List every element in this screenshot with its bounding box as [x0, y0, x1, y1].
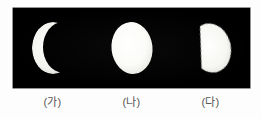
phase-label-row: (가) (나) (다) — [13, 92, 250, 114]
moon-cell-b — [92, 8, 171, 88]
phase-label-c: (다) — [171, 92, 250, 112]
moon-cell-c — [171, 8, 250, 88]
moon-photo-panel — [13, 8, 250, 88]
phase-label-a: (가) — [13, 92, 92, 112]
moon-crescent-icon — [21, 12, 85, 84]
moon-cell-a — [13, 8, 92, 88]
moon-half-icon — [179, 12, 243, 84]
phase-label-b: (나) — [92, 92, 171, 112]
moon-phase-figure: (가) (나) (다) — [0, 0, 261, 119]
moon-full-icon — [100, 12, 164, 84]
